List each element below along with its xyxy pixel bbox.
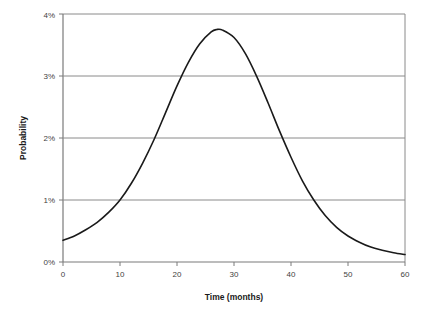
y-tick-label-3: 3% <box>43 72 55 81</box>
x-tick-label-40: 40 <box>287 270 296 279</box>
y-tick-label-1: 1% <box>43 196 55 205</box>
probability-line-chart: 0% 1% 2% 3% 4% 0 10 20 30 40 50 60 <box>0 0 430 314</box>
y-tick-label-2: 2% <box>43 134 55 143</box>
y-axis-title: Probability <box>18 116 28 160</box>
y-tick-label-4: 4% <box>43 11 55 20</box>
x-tick-label-20: 20 <box>173 270 182 279</box>
chart-background <box>0 0 430 314</box>
x-tick-label-30: 30 <box>230 270 239 279</box>
x-tick-label-60: 60 <box>401 270 410 279</box>
x-tick-label-10: 10 <box>116 270 125 279</box>
y-tick-label-0: 0% <box>43 258 55 267</box>
x-tick-label-0: 0 <box>61 270 66 279</box>
x-tick-label-50: 50 <box>344 270 353 279</box>
x-axis-title: Time (months) <box>205 292 264 302</box>
chart-container: 0% 1% 2% 3% 4% 0 10 20 30 40 50 60 <box>0 0 430 314</box>
